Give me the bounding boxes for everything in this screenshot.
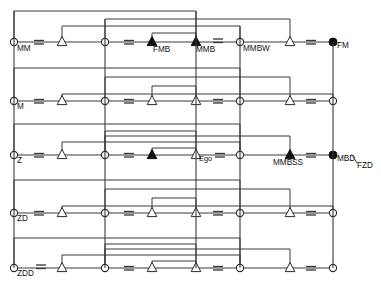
triangle-zdd-2[interactable]: [147, 262, 157, 271]
row-zdd-feedback-outer: [14, 238, 240, 268]
triangle-m-4[interactable]: [285, 95, 295, 104]
label-fmb: FMB: [153, 45, 171, 54]
vertical-buses: [14, 11, 333, 268]
row-mm-equals-3: [213, 39, 223, 43]
triangle-zd-4[interactable]: [285, 207, 295, 216]
triangle-m-2[interactable]: [147, 95, 157, 104]
triangle-zd-1[interactable]: [57, 207, 67, 216]
row-mm-feedback-short: [152, 33, 196, 42]
triangle-zd-2[interactable]: [147, 207, 157, 216]
label-zd: ZD: [17, 214, 28, 223]
label-mmb: MMB: [196, 45, 216, 54]
triangle-m-1[interactable]: [57, 95, 67, 104]
triangle-zdd-4[interactable]: [285, 262, 295, 271]
label-ego: Ego: [199, 154, 212, 163]
label-mmbss: MMBSS: [273, 158, 304, 167]
row-z-feedback-outer: [14, 124, 240, 155]
label-fm: FM: [337, 41, 349, 50]
diagram-canvas: MM FMB MMB MMBW FM: [0, 0, 381, 289]
diagram-root: MM FMB MMB MMBW FM: [0, 0, 381, 289]
label-fzd-denominator: FZD: [357, 161, 373, 170]
row-zd-feedback-outer: [14, 180, 240, 213]
label-z: Z: [17, 156, 22, 165]
label-m: M: [17, 102, 24, 111]
label-zdd: ZDD: [17, 269, 34, 278]
row-zdd-feedback-d: [152, 261, 196, 268]
row-mm: MM FMB MMB MMBW FM: [10, 11, 349, 54]
row-z-feedback-d: [152, 148, 196, 155]
row-z: Z Ego MMBSS MBD FZD: [10, 124, 373, 170]
triangle-zdd-1[interactable]: [57, 262, 67, 271]
triangle-mm-2[interactable]: [285, 36, 295, 45]
row-zdd: ZDD: [10, 238, 336, 278]
triangle-mm-1[interactable]: [57, 36, 67, 45]
triangle-z-filled-1[interactable]: [147, 149, 157, 158]
triangle-z-1[interactable]: [57, 149, 67, 158]
label-mbd-fzd: MBD FZD: [337, 154, 373, 170]
row-zd: ZD: [10, 180, 336, 223]
row-m: M: [10, 68, 336, 111]
label-mmbw: MMBW: [243, 44, 270, 53]
label-mm: MM: [17, 44, 31, 53]
row-m-feedback-outer: [14, 68, 240, 101]
row-zdd-equals-1: [36, 265, 46, 269]
